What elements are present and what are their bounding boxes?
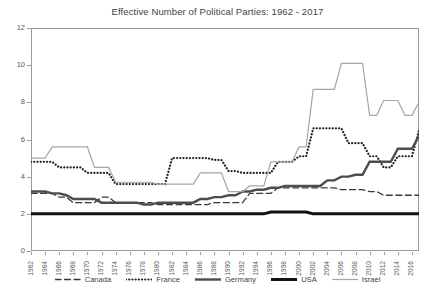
x-tick-label: 2000 bbox=[296, 261, 303, 276]
x-tick-mark bbox=[271, 252, 272, 255]
x-tick-mark bbox=[299, 252, 300, 255]
x-tick-label: 1994 bbox=[253, 261, 260, 276]
legend-label: Germany bbox=[225, 276, 256, 284]
x-tick-mark bbox=[158, 252, 159, 255]
x-tick-label: 1996 bbox=[267, 261, 274, 276]
x-tick-mark bbox=[102, 252, 103, 255]
x-tick-mark bbox=[73, 252, 74, 255]
x-tick-label: 1962 bbox=[28, 261, 35, 276]
legend-swatch-france bbox=[126, 276, 152, 283]
legend-label: Canada bbox=[85, 276, 112, 284]
legend-item-israel[interactable]: Israel bbox=[332, 276, 381, 284]
x-tick-mark bbox=[186, 252, 187, 255]
x-tick-mark bbox=[130, 252, 131, 255]
legend-item-usa[interactable]: USA bbox=[271, 276, 317, 284]
x-tick-mark bbox=[285, 252, 286, 255]
series-line-germany bbox=[31, 136, 419, 205]
x-tick-mark bbox=[87, 252, 88, 255]
x-tick-label: 1968 bbox=[70, 261, 77, 276]
legend-label: France bbox=[156, 276, 180, 284]
x-tick-label: 1974 bbox=[112, 261, 119, 276]
x-tick-label: 2012 bbox=[380, 261, 387, 276]
x-tick-mark bbox=[172, 252, 173, 255]
x-tick-mark bbox=[144, 252, 145, 255]
x-tick-label: 1986 bbox=[197, 261, 204, 276]
x-tick-label: 1982 bbox=[169, 261, 176, 276]
x-tick-label: 1978 bbox=[140, 261, 147, 276]
legend-swatch-germany bbox=[195, 276, 221, 283]
x-tick-mark bbox=[257, 252, 258, 255]
y-tick-label: 2 bbox=[1, 210, 25, 218]
y-tick-label: 6 bbox=[1, 136, 25, 144]
x-tick-label: 1988 bbox=[211, 261, 218, 276]
legend-label: Israel bbox=[362, 276, 381, 284]
x-tick-mark bbox=[412, 252, 413, 255]
x-tick-mark bbox=[31, 252, 32, 255]
y-axis: 024681012 bbox=[0, 28, 28, 251]
x-tick-label: 2014 bbox=[394, 261, 401, 276]
chart-title: Effective Number of Political Parties: 1… bbox=[0, 6, 435, 17]
x-tick-label: 2004 bbox=[324, 261, 331, 276]
legend-swatch-israel bbox=[332, 276, 358, 283]
x-tick-mark bbox=[116, 252, 117, 255]
series-line-usa bbox=[31, 212, 419, 214]
x-tick-mark bbox=[229, 252, 230, 255]
x-tick-label: 2008 bbox=[352, 261, 359, 276]
x-tick-label: 1984 bbox=[183, 261, 190, 276]
x-tick-label: 1998 bbox=[281, 261, 288, 276]
x-tick-mark bbox=[200, 252, 201, 255]
y-tick-label: 4 bbox=[1, 173, 25, 181]
legend-swatch-canada bbox=[55, 276, 81, 283]
x-tick-label: 1966 bbox=[56, 261, 63, 276]
legend-item-germany[interactable]: Germany bbox=[195, 276, 256, 284]
x-tick-label: 1990 bbox=[225, 261, 232, 276]
legend-item-france[interactable]: France bbox=[126, 276, 180, 284]
x-tick-label: 1972 bbox=[98, 261, 105, 276]
legend-swatch-usa bbox=[271, 276, 297, 283]
x-tick-mark bbox=[398, 252, 399, 255]
series-line-israel bbox=[31, 63, 419, 191]
x-tick-label: 1964 bbox=[42, 261, 49, 276]
x-tick-label: 1980 bbox=[154, 261, 161, 276]
x-tick-label: 1992 bbox=[239, 261, 246, 276]
y-tick-label: 0 bbox=[1, 247, 25, 255]
x-tick-label: 2016 bbox=[408, 261, 415, 276]
x-tick-mark bbox=[370, 252, 371, 255]
x-tick-mark bbox=[214, 252, 215, 255]
x-tick-mark bbox=[384, 252, 385, 255]
x-axis: 1962196419661968197019721974197619781980… bbox=[31, 252, 419, 276]
x-tick-label: 1976 bbox=[126, 261, 133, 276]
plot-area bbox=[31, 28, 419, 251]
series-layer bbox=[31, 28, 419, 251]
y-tick-label: 12 bbox=[1, 24, 25, 32]
chart-legend: CanadaFranceGermanyUSAIsrael bbox=[0, 276, 435, 284]
y-tick-label: 10 bbox=[1, 61, 25, 69]
x-tick-mark bbox=[59, 252, 60, 255]
x-tick-label: 1970 bbox=[84, 261, 91, 276]
x-tick-mark bbox=[341, 252, 342, 255]
legend-label: USA bbox=[301, 276, 317, 284]
y-tick-label: 8 bbox=[1, 99, 25, 107]
x-tick-mark bbox=[243, 252, 244, 255]
legend-item-canada[interactable]: Canada bbox=[55, 276, 112, 284]
x-tick-mark bbox=[45, 252, 46, 255]
x-tick-mark bbox=[327, 252, 328, 255]
x-tick-label: 2002 bbox=[310, 261, 317, 276]
x-tick-label: 2006 bbox=[338, 261, 345, 276]
x-tick-mark bbox=[356, 252, 357, 255]
chart-container: Effective Number of Political Parties: 1… bbox=[0, 0, 435, 294]
x-tick-mark bbox=[313, 252, 314, 255]
x-tick-label: 2010 bbox=[366, 261, 373, 276]
